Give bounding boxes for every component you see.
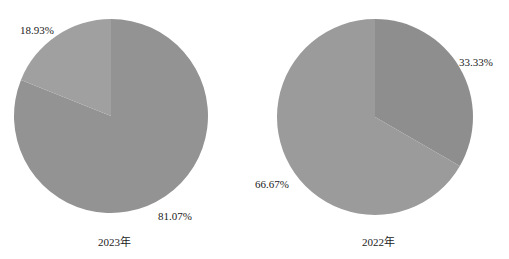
slice-label-81-07: 81.07% [158, 210, 192, 222]
chart-caption-2022: 2022年 [362, 233, 395, 249]
slice-label-18-93: 18.93% [20, 24, 54, 36]
pie-chart-2023: 18.93% 81.07% 2023年 [0, 0, 254, 259]
chart-caption-2023: 2023年 [98, 233, 131, 249]
pie-chart-2022: 33.33% 66.67% 2022年 [255, 0, 509, 259]
slice-label-66-67: 66.67% [255, 178, 289, 190]
pie-2023-graphic [0, 0, 254, 259]
slice-label-33-33: 33.33% [459, 56, 493, 68]
pie-2022-graphic [255, 0, 509, 259]
